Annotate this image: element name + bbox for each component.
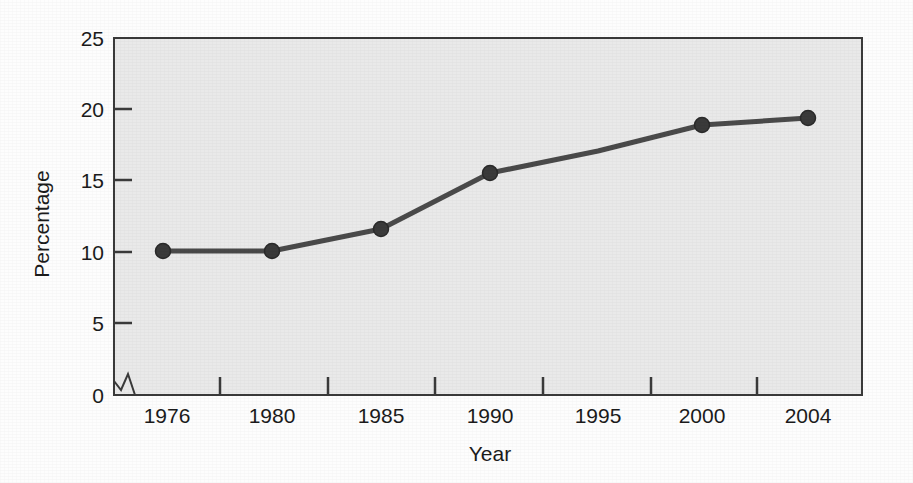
y-axis-title: Percentage (30, 170, 53, 277)
line-chart: 25 20 15 10 5 0 1976 1980 1985 1990 1995… (0, 0, 913, 483)
chart-canvas: 25 20 15 10 5 0 1976 1980 1985 1990 1995… (0, 0, 913, 483)
data-point-2000[interactable] (695, 118, 710, 133)
chart-page: 25 20 15 10 5 0 1976 1980 1985 1990 1995… (0, 0, 913, 483)
x-axis-title: Year (469, 442, 511, 465)
x-tick-label-2000: 2000 (679, 404, 726, 427)
data-point-1980[interactable] (265, 244, 280, 259)
y-tick-label-20: 20 (81, 98, 104, 121)
x-tick-label-1990: 1990 (467, 404, 514, 427)
y-tick-label-25: 25 (81, 27, 104, 50)
x-tick-label-1985: 1985 (358, 404, 405, 427)
x-tick-label-1995: 1995 (575, 404, 622, 427)
y-tick-label-5: 5 (92, 312, 104, 335)
y-tick-label-15: 15 (81, 169, 104, 192)
x-tick-label-1976: 1976 (144, 404, 191, 427)
plot-area-background (114, 38, 862, 395)
x-tick-label-1980: 1980 (249, 404, 296, 427)
data-point-1985[interactable] (374, 222, 389, 237)
data-point-1990[interactable] (483, 166, 498, 181)
x-tick-label-2004: 2004 (785, 404, 832, 427)
data-point-2004[interactable] (801, 111, 816, 126)
y-tick-label-10: 10 (81, 241, 104, 264)
y-tick-label-0: 0 (92, 384, 104, 407)
data-point-1976[interactable] (156, 244, 171, 259)
